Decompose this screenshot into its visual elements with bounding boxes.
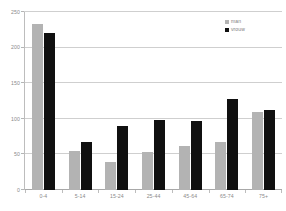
y-tick-label: 0 [0, 188, 20, 193]
bar-group [25, 12, 62, 190]
bar-vrouw-0-4 [44, 33, 55, 190]
bar-man-5-14 [69, 151, 80, 190]
bar-vrouw-5-14 [81, 142, 92, 190]
bar-group [245, 12, 282, 190]
y-tick-mark [21, 189, 24, 190]
bar-vrouw-25-44 [154, 120, 165, 190]
y-tick-label: 50 [0, 152, 20, 157]
y-tick-mark [21, 47, 24, 48]
y-tick-label: 100 [0, 117, 20, 122]
bars-layer [25, 12, 282, 190]
legend-entry-vrouw[interactable]: vrouw [225, 27, 245, 32]
legend-label: vrouw [231, 27, 245, 32]
bar-man-65-74 [215, 142, 226, 190]
x-tick-label-0-4: 0-4 [25, 194, 62, 199]
x-tick-label-65-74: 65-74 [209, 194, 246, 199]
y-tick-mark [21, 82, 24, 83]
bar-vrouw-65-74 [227, 99, 238, 190]
bar-man-0-4 [32, 24, 43, 190]
legend-swatch-icon [225, 28, 229, 32]
bar-vrouw-15-24 [117, 126, 128, 190]
bar-group [172, 12, 209, 190]
legend-swatch-icon [225, 20, 229, 24]
bar-group [135, 12, 172, 190]
legend-label: man [231, 19, 241, 24]
bar-vrouw-45-64 [191, 121, 202, 190]
bar-vrouw-75+ [264, 110, 275, 190]
x-axis-labels: 0-45-1415-2425-4445-6465-7475+ [25, 194, 282, 199]
legend-entry-man[interactable]: man [225, 19, 245, 24]
x-tick-label-45-64: 45-64 [172, 194, 209, 199]
y-tick-mark [21, 118, 24, 119]
x-tick-label-15-24: 15-24 [98, 194, 135, 199]
x-tick-label-75+: 75+ [245, 194, 282, 199]
y-tick-label: 250 [0, 10, 20, 15]
x-axis-tick-end [281, 190, 282, 193]
bar-group [209, 12, 246, 190]
y-tick-mark [21, 11, 24, 12]
bar-man-45-64 [179, 146, 190, 190]
x-tick-label-25-44: 25-44 [135, 194, 172, 199]
bar-group [98, 12, 135, 190]
y-tick-label: 150 [0, 81, 20, 86]
bar-man-75+ [252, 112, 263, 190]
bar-man-15-24 [105, 162, 116, 190]
bar-chart: 050100150200250 0-45-1415-2425-4445-6465… [0, 0, 286, 211]
y-tick-label: 200 [0, 45, 20, 50]
chart-legend: manvrouw [225, 19, 245, 32]
y-tick-mark [21, 153, 24, 154]
bar-group [62, 12, 99, 190]
bar-man-25-44 [142, 152, 153, 190]
x-tick-label-5-14: 5-14 [62, 194, 99, 199]
